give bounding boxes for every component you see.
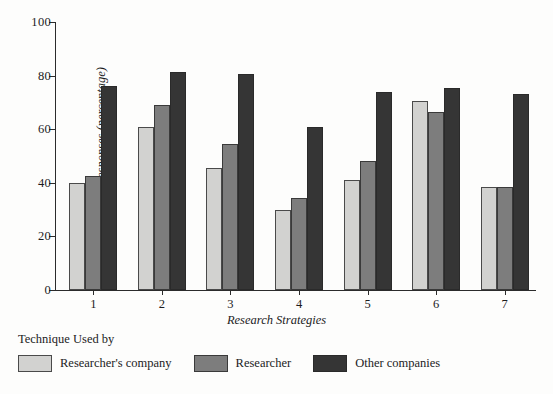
x-tick-label: 6 [433,297,439,312]
legend-swatch [18,355,52,372]
bar [344,180,360,290]
x-tick-mark [368,290,369,295]
legend-swatch [194,355,228,372]
x-tick-label: 1 [90,297,96,312]
bar [376,92,392,290]
x-tick-mark [505,290,506,295]
legend-swatch [313,355,347,372]
legend-item: Researcher [194,355,314,372]
bar-group: 4 [275,22,323,290]
legend-item: Other companies [313,355,462,372]
bar-chart-figure: Affirmative Responses (percentage) 02040… [0,0,553,394]
y-tick-label: 80 [38,68,51,83]
bar [101,86,117,290]
y-tick-label: 0 [44,283,51,298]
bar [206,168,222,290]
x-tick-mark [93,290,94,295]
bar [307,127,323,290]
bar [170,72,186,290]
bar [412,101,428,290]
y-tick-label: 60 [38,122,51,137]
bar-group: 6 [412,22,460,290]
bar-group: 3 [206,22,254,290]
bar [497,187,513,290]
bar [154,105,170,290]
bar [291,198,307,290]
bar [481,187,497,290]
x-axis-line [55,290,536,291]
bar [428,112,444,290]
legend-label: Researcher's company [60,356,172,371]
x-tick-label: 4 [296,297,302,312]
x-axis-title: Research Strategies [0,313,553,328]
x-tick-label: 3 [227,297,233,312]
bar [69,183,85,290]
bar-group: 7 [481,22,529,290]
legend-label: Other companies [355,356,440,371]
legend-item: Researcher's company [18,355,194,372]
bar-group: 2 [138,22,186,290]
y-tick-label: 100 [31,15,51,30]
x-tick-mark [299,290,300,295]
x-tick-mark [436,290,437,295]
bar [222,144,238,290]
x-tick-label: 7 [502,297,508,312]
legend-items: Researcher's companyResearcherOther comp… [18,355,538,372]
bar [85,176,101,290]
legend-label: Researcher [236,356,292,371]
legend-title: Technique Used by [18,332,538,347]
bar [444,88,460,290]
y-tick-label: 40 [38,175,51,190]
bar [360,161,376,290]
x-tick-mark [162,290,163,295]
bar [138,127,154,290]
bar [238,74,254,290]
x-tick-label: 5 [364,297,370,312]
x-tick-mark [230,290,231,295]
bar [513,94,529,290]
bar-group: 1 [69,22,117,290]
plot-area: Affirmative Responses (percentage) 02040… [55,22,535,290]
y-tick-label: 20 [38,229,51,244]
bar-group: 5 [344,22,392,290]
legend: Technique Used by Researcher's companyRe… [18,332,538,372]
x-tick-label: 2 [159,297,165,312]
bar [275,210,291,290]
